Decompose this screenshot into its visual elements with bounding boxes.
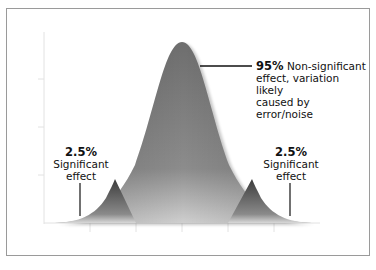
left-tail-annotation: 2.5% Significant effect	[44, 146, 118, 182]
right-label-line1: Significant	[254, 158, 328, 170]
center-label-part2: effect, variation likely	[256, 72, 368, 96]
center-percent: 95%	[256, 59, 284, 73]
left-percent: 2.5%	[44, 146, 118, 158]
left-label-line2: effect	[44, 170, 118, 182]
center-label-part3: caused by error/noise	[256, 96, 368, 120]
center-annotation: 95% Non-significant effect, variation li…	[256, 60, 368, 120]
bell-curve-chart	[0, 0, 376, 270]
right-label-line2: effect	[254, 170, 328, 182]
right-percent: 2.5%	[254, 146, 328, 158]
center-label-part1: Non-significant	[287, 60, 366, 72]
center-annotation-line1: 95% Non-significant	[256, 60, 368, 72]
right-tail-annotation: 2.5% Significant effect	[254, 146, 328, 182]
left-label-line1: Significant	[44, 158, 118, 170]
